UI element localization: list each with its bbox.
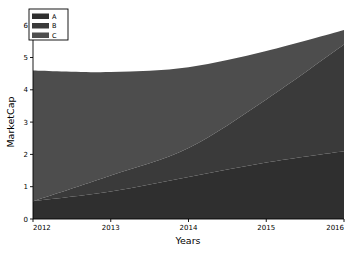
legend-swatch xyxy=(32,23,49,29)
x-axis-title: Years xyxy=(174,235,200,246)
stacked-area-chart: 0123456 20122013201420152016 MarketCap Y… xyxy=(0,0,357,253)
legend-swatch xyxy=(32,14,49,20)
legend-label: C xyxy=(52,32,57,40)
y-axis-title: MarketCap xyxy=(5,96,16,147)
legend-entries: ABC xyxy=(32,13,57,40)
y-tick-label: 0 xyxy=(24,216,28,224)
y-tick-label: 5 xyxy=(24,54,28,62)
y-tick-label: 2 xyxy=(24,151,28,159)
y-tick-label: 6 xyxy=(24,22,29,30)
legend-label: B xyxy=(52,22,56,30)
legend-swatch xyxy=(32,33,49,39)
y-tick-label: 3 xyxy=(24,119,28,127)
x-tick-label: 2014 xyxy=(180,224,198,232)
x-tick-label: 2013 xyxy=(102,224,120,232)
legend-label: A xyxy=(52,13,57,21)
x-tick-label: 2016 xyxy=(326,224,344,232)
x-tick-label: 2015 xyxy=(257,224,275,232)
x-tick-label: 2012 xyxy=(33,224,51,232)
chart-figure: 0123456 20122013201420152016 MarketCap Y… xyxy=(0,0,357,253)
y-tick-label: 1 xyxy=(24,183,28,191)
chart-legend[interactable]: ABC xyxy=(29,9,68,40)
y-tick-label: 4 xyxy=(24,86,29,94)
